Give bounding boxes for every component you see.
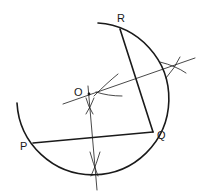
point-O-dot (88, 93, 91, 96)
label-Q: Q (157, 129, 166, 141)
compass-arcs-QR-outer (160, 57, 186, 78)
geometry-diagram: R Q P O (0, 0, 206, 196)
label-P: P (20, 140, 27, 152)
perpendicular-bisector-QR (63, 58, 195, 104)
label-R: R (117, 12, 125, 24)
label-O: O (74, 86, 83, 98)
circumcircle-arc (17, 23, 169, 175)
segment-RQ (120, 29, 153, 132)
